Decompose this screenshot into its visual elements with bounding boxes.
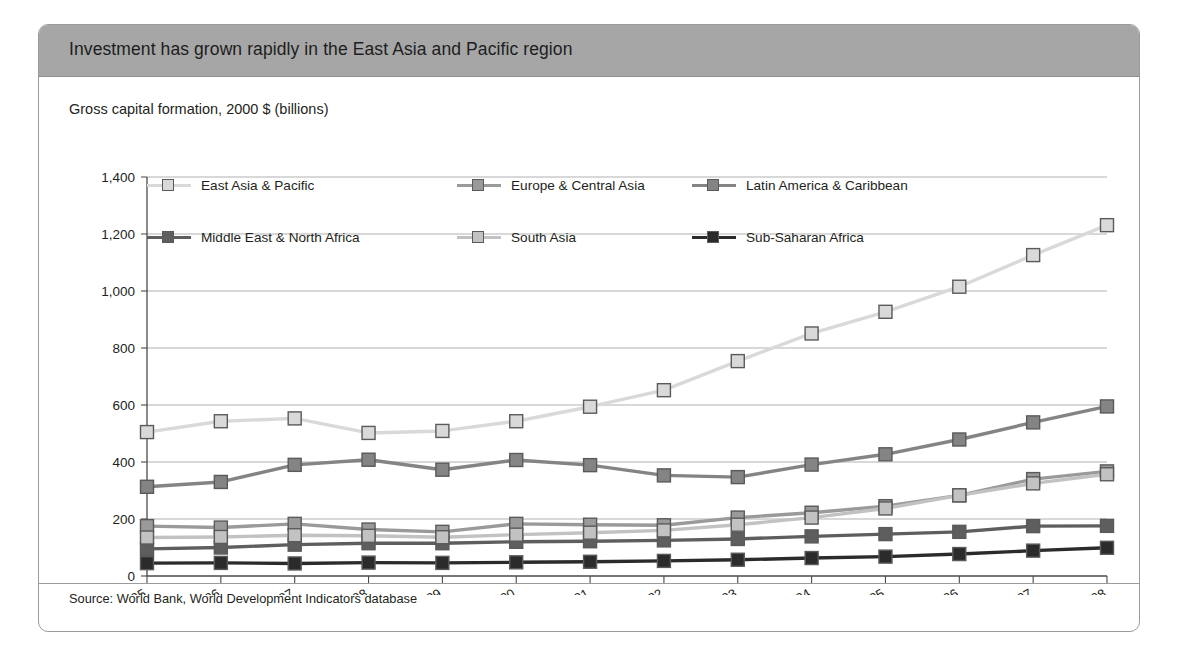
x-axis-tick-label: 2006 [928, 586, 961, 595]
series-marker [141, 426, 154, 439]
series-marker [657, 384, 670, 397]
series-marker [953, 525, 966, 538]
legend-swatch-icon [692, 177, 736, 193]
x-axis-tick-label: 2000 [485, 586, 518, 595]
legend-swatch-icon [147, 177, 191, 193]
series-marker [510, 454, 523, 467]
series-marker [362, 556, 375, 569]
series-marker [731, 532, 744, 545]
series-marker [288, 458, 301, 471]
series-marker [805, 327, 818, 340]
x-axis-tick-label: 2005 [854, 586, 887, 595]
y-axis-tick-label: 200 [112, 512, 135, 527]
series-marker [141, 480, 154, 493]
series-marker [288, 412, 301, 425]
series-marker [1027, 249, 1040, 262]
series-marker [214, 556, 227, 569]
x-axis-tick-label: 2007 [1002, 586, 1035, 595]
y-axis-tick-label: 1,000 [101, 284, 135, 299]
series-marker [731, 355, 744, 368]
series-marker [510, 415, 523, 428]
series-marker [362, 529, 375, 542]
legend-label: Europe & Central Asia [511, 178, 645, 193]
chart-subtitle: Gross capital formation, 2000 $ (billion… [69, 101, 329, 117]
y-axis-tick-label: 1,400 [101, 170, 135, 185]
source-note: Source: World Bank, World Development In… [69, 591, 417, 606]
series-marker [731, 553, 744, 566]
series-marker [1101, 400, 1114, 413]
legend-swatch-icon [692, 229, 736, 245]
legend-swatch-icon [457, 177, 501, 193]
legend-entry[interactable]: Middle East & North Africa [147, 229, 360, 245]
series-marker [1101, 541, 1114, 554]
series-marker [584, 526, 597, 539]
chart-plot-area: 02004006008001,0001,2001,400199519961997… [39, 125, 1140, 595]
series-marker [510, 528, 523, 541]
legend-label: East Asia & Pacific [201, 178, 314, 193]
legend-label: South Asia [511, 230, 576, 245]
series-marker [141, 557, 154, 570]
legend-label: Latin America & Caribbean [746, 178, 908, 193]
series-marker [953, 433, 966, 446]
series-marker [510, 556, 523, 569]
y-axis-tick-label: 800 [112, 341, 135, 356]
series-marker [584, 400, 597, 413]
legend-row: Middle East & North AfricaSouth AsiaSub-… [147, 203, 1007, 229]
x-axis-tick-label: 2002 [633, 586, 666, 595]
series-marker [214, 415, 227, 428]
series-marker [953, 548, 966, 561]
series-marker [214, 475, 227, 488]
series-marker [288, 529, 301, 542]
legend-entry[interactable]: Europe & Central Asia [457, 177, 645, 193]
series-marker [362, 453, 375, 466]
series-marker [1027, 520, 1040, 533]
series-marker [288, 557, 301, 570]
series-marker [805, 530, 818, 543]
series-marker [1101, 468, 1114, 481]
series-marker [584, 459, 597, 472]
series-marker [879, 502, 892, 515]
series-marker [141, 531, 154, 544]
series-marker [436, 424, 449, 437]
x-axis-tick-label: 2004 [780, 586, 813, 595]
series-marker [805, 511, 818, 524]
series-marker [436, 531, 449, 544]
series-marker [805, 458, 818, 471]
series-marker [657, 524, 670, 537]
legend-label: Middle East & North Africa [201, 230, 360, 245]
series-marker [879, 550, 892, 563]
series-marker [362, 426, 375, 439]
series-marker [731, 471, 744, 484]
page-title: Investment has grown rapidly in the East… [69, 39, 572, 60]
x-axis-tick-label: 2003 [706, 586, 739, 595]
series-marker [1101, 219, 1114, 232]
series-marker [1101, 519, 1114, 532]
legend-entry[interactable]: East Asia & Pacific [147, 177, 314, 193]
legend-entry[interactable]: South Asia [457, 229, 576, 245]
legend-swatch-icon [457, 229, 501, 245]
series-marker [214, 530, 227, 543]
x-axis-tick-label: 2001 [559, 586, 592, 595]
series-line [147, 225, 1107, 433]
y-axis-tick-label: 400 [112, 455, 135, 470]
y-axis-tick-label: 1,200 [101, 227, 135, 242]
series-marker [731, 518, 744, 531]
series-marker [1027, 477, 1040, 490]
y-axis-tick-label: 0 [127, 569, 135, 584]
series-marker [657, 554, 670, 567]
series-marker [879, 528, 892, 541]
chart-legend: East Asia & PacificEurope & Central Asia… [147, 177, 1007, 229]
source-divider [39, 583, 1140, 584]
legend-swatch-icon [147, 229, 191, 245]
legend-label: Sub-Saharan Africa [746, 230, 864, 245]
legend-entry[interactable]: Sub-Saharan Africa [692, 229, 864, 245]
figure-card: Investment has grown rapidly in the East… [38, 24, 1140, 632]
series-marker [953, 489, 966, 502]
y-axis-tick-label: 600 [112, 398, 135, 413]
series-marker [584, 555, 597, 568]
series-marker [879, 305, 892, 318]
legend-entry[interactable]: Latin America & Caribbean [692, 177, 908, 193]
series-marker [1027, 544, 1040, 557]
series-marker [879, 448, 892, 461]
legend-row: East Asia & PacificEurope & Central Asia… [147, 177, 1007, 203]
